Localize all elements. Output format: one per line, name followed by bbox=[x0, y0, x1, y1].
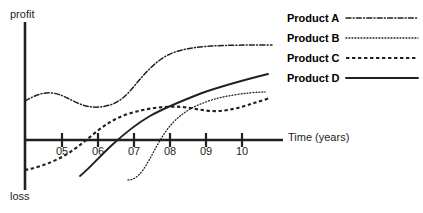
series-line-product-a bbox=[25, 45, 272, 107]
legend-label-product-d: Product D bbox=[287, 72, 340, 84]
legend-swatch-dash-dot-icon bbox=[345, 13, 419, 23]
legend-item-product-a[interactable]: Product A bbox=[287, 8, 423, 28]
legend-label-product-c: Product C bbox=[287, 52, 340, 64]
series-line-product-d bbox=[80, 74, 268, 176]
legend-item-product-c[interactable]: Product C bbox=[287, 48, 423, 68]
legend-swatch-dashed-icon bbox=[345, 53, 419, 63]
x-axis-title: Time (years) bbox=[288, 131, 349, 143]
legend-label-product-b: Product B bbox=[287, 32, 340, 44]
x-tick-label-07: 07 bbox=[122, 145, 146, 157]
x-tick-label-09: 09 bbox=[194, 145, 218, 157]
legend-swatch-solid-icon bbox=[345, 73, 419, 83]
legend-item-product-b[interactable]: Product B bbox=[287, 28, 423, 48]
x-tick-label-10: 10 bbox=[230, 145, 254, 157]
y-axis-profit-label: profit bbox=[10, 8, 34, 20]
legend-label-product-a: Product A bbox=[287, 12, 339, 24]
x-tick-label-05: 05 bbox=[50, 145, 74, 157]
x-tick-label-06: 06 bbox=[86, 145, 110, 157]
legend-item-product-d[interactable]: Product D bbox=[287, 68, 423, 88]
x-tick-label-08: 08 bbox=[158, 145, 182, 157]
chart-legend: Product A Product B Product C Product D bbox=[287, 8, 423, 88]
legend-swatch-dotted-icon bbox=[345, 33, 419, 43]
chart-figure: profit loss Time (years) 05 06 07 08 09 … bbox=[0, 0, 423, 213]
y-axis-loss-label: loss bbox=[10, 190, 30, 202]
